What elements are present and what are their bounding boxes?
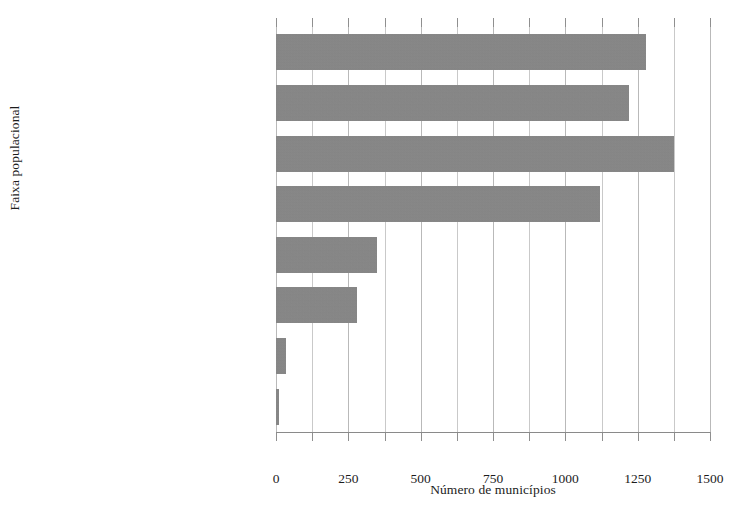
bar — [276, 338, 286, 374]
bar — [276, 237, 377, 273]
x-axis-tick-bottom — [348, 432, 349, 441]
x-axis-tick-bottom — [493, 432, 494, 441]
x-axis-tick-top — [674, 18, 675, 27]
x-axis-tick-label: 1250 — [624, 471, 651, 487]
x-axis-tick-top — [385, 18, 386, 27]
x-axis-line — [276, 432, 710, 433]
bar-chart: Faixa populacional Número de municípios … — [0, 0, 750, 515]
bar — [276, 186, 600, 222]
x-axis-tick-top — [312, 18, 313, 27]
bar-row — [276, 136, 710, 172]
x-axis-tick-top — [421, 18, 422, 27]
bar — [276, 389, 279, 425]
bar-row — [276, 338, 710, 374]
x-axis-tick-top — [602, 18, 603, 27]
x-axis-tick-top — [276, 18, 277, 27]
x-axis-tick-bottom — [710, 432, 711, 441]
bar — [276, 287, 357, 323]
bar-row — [276, 287, 710, 323]
x-axis-tick-top — [529, 18, 530, 27]
x-axis-tick-top — [493, 18, 494, 27]
x-axis-tick-bottom — [385, 432, 386, 441]
x-axis-tick-top — [348, 18, 349, 27]
x-axis-tick-label: 1000 — [552, 471, 579, 487]
x-axis-tick-label: 1500 — [697, 471, 724, 487]
bar — [276, 34, 646, 70]
bar-row — [276, 34, 710, 70]
bar-row — [276, 186, 710, 222]
x-axis-tick-bottom — [638, 432, 639, 441]
x-axis-tick-top — [710, 18, 711, 27]
x-axis-tick-bottom — [529, 432, 530, 441]
bar — [276, 136, 674, 172]
plot-area: Até 5.000 hab.Entre 5.001-10.000 hab.Ent… — [276, 27, 710, 432]
x-axis-tick-bottom — [312, 432, 313, 441]
bar-row — [276, 85, 710, 121]
x-axis-tick-top — [457, 18, 458, 27]
x-axis-tick-bottom — [565, 432, 566, 441]
x-axis-tick-label: 250 — [338, 471, 358, 487]
x-axis-tick-label: 750 — [483, 471, 503, 487]
y-axis-title: Faixa populacional — [7, 58, 23, 258]
x-axis-tick-bottom — [457, 432, 458, 441]
x-axis-tick-bottom — [276, 432, 277, 441]
x-axis-tick-top — [565, 18, 566, 27]
x-axis-tick-bottom — [602, 432, 603, 441]
x-axis-tick-label: 0 — [273, 471, 280, 487]
x-axis-tick-label: 500 — [411, 471, 431, 487]
x-axis-tick-bottom — [421, 432, 422, 441]
bar-row — [276, 389, 710, 425]
x-axis-tick-top — [638, 18, 639, 27]
gridline — [710, 27, 711, 432]
x-axis-tick-bottom — [674, 432, 675, 441]
bar — [276, 85, 629, 121]
bar-row — [276, 237, 710, 273]
